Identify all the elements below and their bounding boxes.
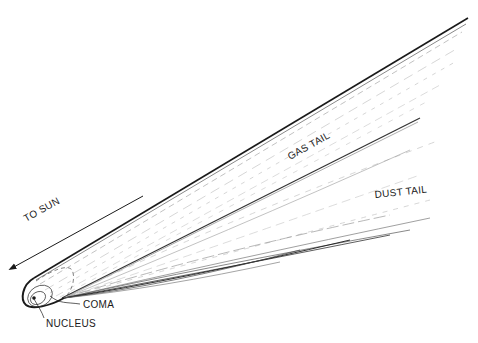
to-sun-arrow <box>12 196 143 268</box>
comet-diagram: TO SUN GAS TAIL DUST TAIL COMA NUCLEUS <box>0 0 478 343</box>
comet-head <box>23 268 74 312</box>
nucleus-label: NUCLEUS <box>46 318 96 329</box>
coma-label: COMA <box>83 299 114 310</box>
comet-illustration: TO SUN GAS TAIL DUST TAIL COMA NUCLEUS <box>0 0 478 343</box>
dust-tail <box>64 140 440 298</box>
to-sun-label: TO SUN <box>22 195 62 224</box>
dust-tail-label: DUST TAIL <box>374 184 428 200</box>
